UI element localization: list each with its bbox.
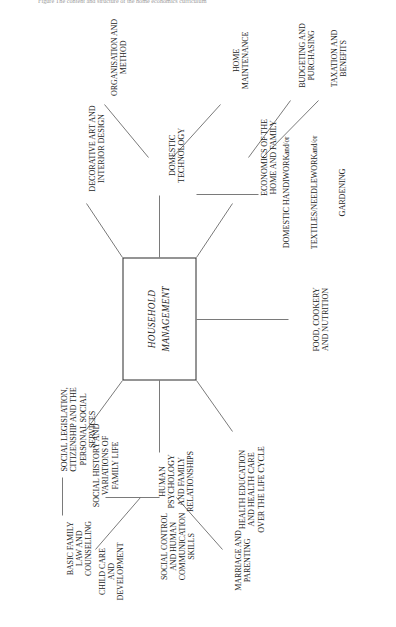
node-basic-family-law[interactable]: BASIC FAMILY LAW AND COUNSELLING bbox=[46, 513, 111, 583]
center-node-line1: HOUSEHOLD bbox=[145, 289, 159, 347]
node-home-maintenance-label: HOME MAINTENANCE bbox=[231, 17, 250, 103]
node-organisation-method[interactable]: ORGANISATION AND METHOD bbox=[90, 9, 146, 105]
node-social-legislation-label: SOCIAL LEGISLATION, CITIZENSHIP AND THE … bbox=[59, 383, 97, 475]
node-handiwork-andor-2: and/or bbox=[309, 135, 318, 153]
node-marriage-parenting[interactable]: MARRIAGE AND PARENTING bbox=[214, 515, 270, 605]
node-domestic-technology[interactable]: DOMESTIC TECHNOLOGY bbox=[148, 115, 204, 195]
node-social-control[interactable]: SOCIAL CONTROL AND HUMAN COMMUNICATION S… bbox=[140, 503, 214, 589]
node-social-control-label: SOCIAL CONTROL AND HUMAN COMMUNICATION S… bbox=[159, 503, 196, 589]
center-node-line2: MANAGEMENT bbox=[159, 286, 173, 352]
node-food-cookery-nutrition[interactable]: FOOD, COOKERY AND NUTRITION bbox=[292, 259, 348, 379]
center-node-household-management[interactable]: HOUSEHOLD MANAGEMENT bbox=[122, 257, 196, 380]
node-taxation-benefits[interactable]: TAXATION AND BENEFITS bbox=[310, 17, 366, 99]
node-home-maintenance[interactable]: HOME MAINTENANCE bbox=[212, 17, 268, 103]
node-decorative-art-label: DECORATIVE ART AND INTERIOR DESIGN bbox=[87, 93, 106, 203]
node-economics-label: ECONOMICS OF THE HOME AND FAMILY bbox=[259, 105, 278, 209]
node-basic-family-law-label: BASIC FAMILY LAW AND COUNSELLING bbox=[65, 513, 93, 583]
node-decorative-art[interactable]: DECORATIVE ART AND INTERIOR DESIGN bbox=[68, 93, 124, 203]
node-handiwork-line2: TEXTILES/NEEDLEWORKand/or bbox=[309, 125, 319, 259]
diagram-canvas: HOUSEHOLD MANAGEMENT FOOD, COOKERY AND N… bbox=[0, 0, 396, 627]
node-organisation-method-label: ORGANISATION AND METHOD bbox=[109, 9, 128, 105]
node-social-legislation[interactable]: SOCIAL LEGISLATION, CITIZENSHIP AND THE … bbox=[40, 383, 115, 475]
node-handiwork-line3: GARDENING bbox=[337, 125, 347, 259]
diagram-page: Figure The content and structure of the … bbox=[0, 0, 396, 627]
node-domestic-technology-label: DOMESTIC TECHNOLOGY bbox=[167, 115, 186, 195]
node-food-cookery-nutrition-label: FOOD, COOKERY AND NUTRITION bbox=[311, 259, 330, 379]
node-marriage-parenting-label: MARRIAGE AND PARENTING bbox=[233, 515, 252, 605]
node-economics-home-family[interactable]: ECONOMICS OF THE HOME AND FAMILY bbox=[240, 105, 296, 209]
node-taxation-label: TAXATION AND BENEFITS bbox=[329, 17, 348, 99]
